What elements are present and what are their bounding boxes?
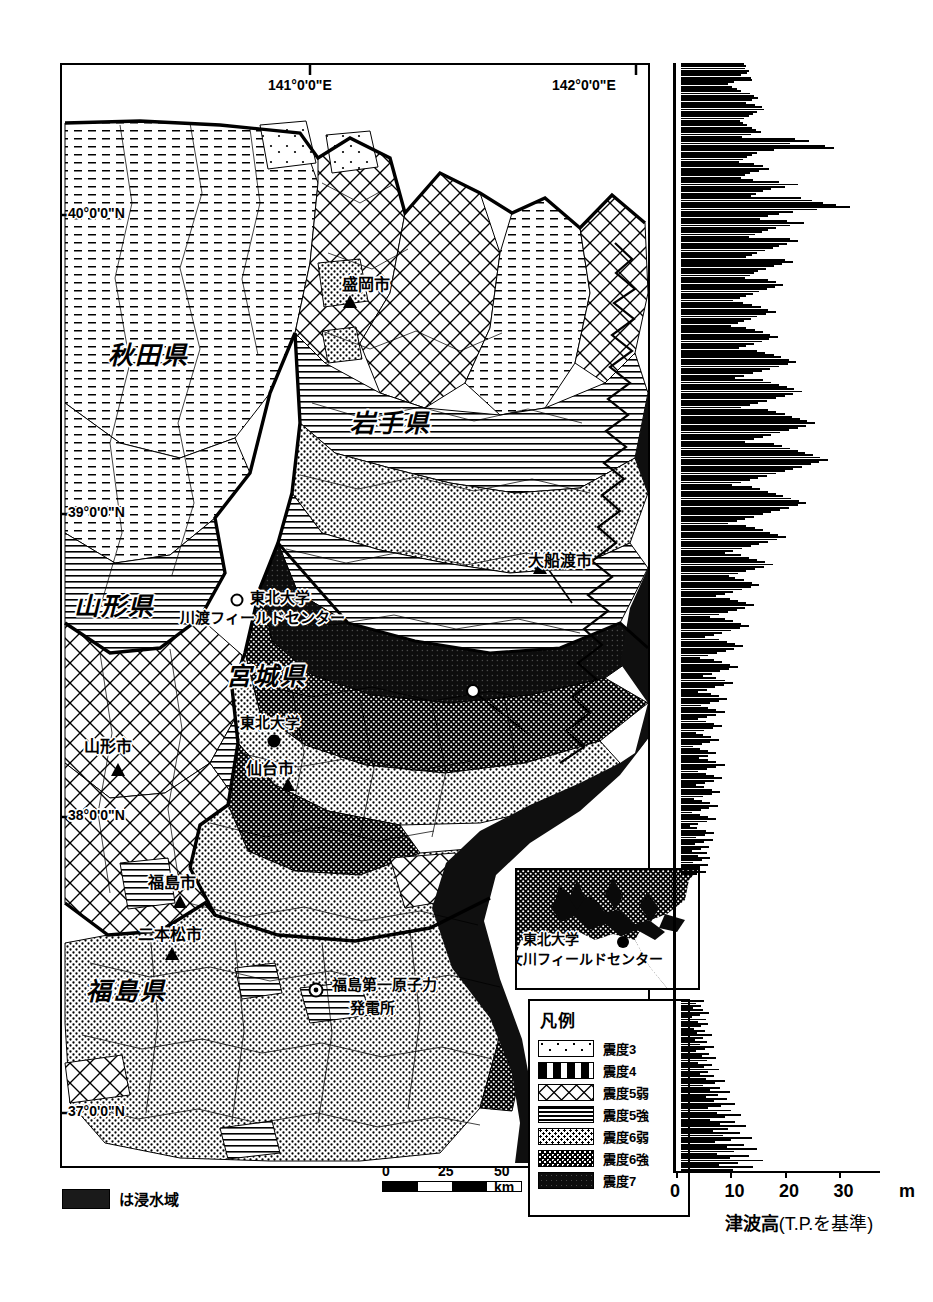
legend-swatch-shindo7	[538, 1172, 594, 1189]
scale-seg-2	[418, 1182, 453, 1191]
scale-bar-labels: 0 25 50 km	[382, 1163, 522, 1179]
chart-x-tick-label: 0	[670, 1181, 680, 1202]
legend-swatch-shindo3	[538, 1040, 594, 1057]
figure-root: 141°0'0"E 142°0'0"E 40°0'0"N 39°0'0"N 38…	[0, 0, 933, 1302]
legend-row-shindo3: 震度3	[538, 1038, 680, 1059]
legend-swatch-shindo6s	[538, 1150, 594, 1167]
legend-label-shindo4: 震度4	[603, 1061, 636, 1080]
legend-box: 凡例 震度3 震度4	[528, 999, 690, 1217]
scale-seg-1	[383, 1182, 418, 1191]
legend-swatch-shindo5w	[538, 1084, 594, 1101]
inundation-key: は浸水域	[62, 1188, 179, 1209]
inundation-label: は浸水域	[119, 1188, 179, 1209]
chart-caption-main: 津波高	[725, 1214, 779, 1234]
legend-swatch-shindo4	[538, 1062, 594, 1079]
scale-label-25: 25	[438, 1163, 454, 1179]
chart-x-tick	[730, 1173, 732, 1178]
chart-x-axis	[673, 1171, 880, 1173]
chart-x-tick-label: 10	[724, 1181, 744, 1202]
chart-x-tick-label: 30	[833, 1181, 853, 1202]
legend-title: 凡例	[540, 1007, 680, 1032]
chart-x-tick	[676, 1173, 678, 1178]
chart-caption-sub: (T.P.を基準)	[779, 1214, 874, 1234]
legend-row-shindo5s: 震度5強	[538, 1104, 680, 1125]
legend-label-shindo5w: 震度5弱	[603, 1083, 649, 1102]
legend-row-shindo6w: 震度6弱	[538, 1126, 680, 1147]
legend-swatch-shindo5w-graphic	[539, 1085, 593, 1100]
legend-label-shindo6s: 震度6強	[603, 1149, 649, 1168]
map-panel: 141°0'0"E 142°0'0"E 40°0'0"N 39°0'0"N 38…	[60, 63, 650, 1168]
chart-unit-label: m	[899, 1181, 915, 1202]
legend-row-shindo6s: 震度6強	[538, 1148, 680, 1169]
legend-row-shindo4: 震度4	[538, 1060, 680, 1081]
legend-swatch-shindo6w	[538, 1128, 594, 1145]
legend-row-shindo5w: 震度5弱	[538, 1082, 680, 1103]
legend-row-shindo7: 震度7	[538, 1170, 680, 1191]
chart-x-axis-caption: 津波高(T.P.を基準)	[668, 1209, 930, 1235]
chart-bar	[681, 873, 697, 875]
legend-label-shindo3: 震度3	[603, 1039, 636, 1058]
chart-x-tick-label: 20	[779, 1181, 799, 1202]
scale-seg-3	[452, 1182, 487, 1191]
legend-label-shindo6w: 震度6弱	[603, 1127, 649, 1146]
scale-label-50: 50 km	[494, 1163, 522, 1195]
chart-plot-area	[673, 63, 930, 1173]
tsunami-height-chart: 0102030m 津波高(T.P.を基準) ※福島第一原子力発 電所付近は，放射…	[668, 63, 930, 1253]
chart-x-tick	[839, 1173, 841, 1178]
scale-bar: 0 25 50 km	[382, 1163, 522, 1192]
chart-y-axis	[673, 63, 676, 1173]
chart-x-tick	[785, 1173, 787, 1178]
scale-label-0: 0	[382, 1163, 390, 1179]
legend-label-shindo7: 震度7	[603, 1171, 636, 1190]
inundation-swatch	[62, 1189, 110, 1209]
legend-label-shindo5s: 震度5強	[603, 1105, 649, 1124]
chart-x-tick-labels: 0102030m	[668, 1181, 930, 1203]
legend-swatch-shindo5s	[538, 1106, 594, 1123]
